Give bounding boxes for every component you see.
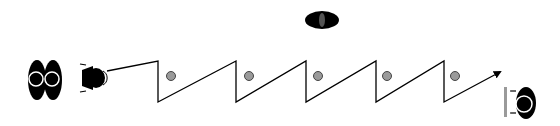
diagram-svg <box>0 0 560 126</box>
marker-dot <box>167 72 176 81</box>
marker-dot <box>451 72 460 81</box>
marker-dot <box>383 72 392 81</box>
marker-dot <box>245 72 254 81</box>
marker-dots <box>167 72 460 81</box>
mover-figure-icon <box>80 64 107 92</box>
movement-path-line <box>107 61 500 102</box>
top-figure-icon <box>305 11 339 29</box>
pair-figure-icon <box>28 60 62 100</box>
marker-dot <box>314 72 323 81</box>
target-figure-icon <box>504 87 536 119</box>
diagram-canvas <box>0 0 560 126</box>
